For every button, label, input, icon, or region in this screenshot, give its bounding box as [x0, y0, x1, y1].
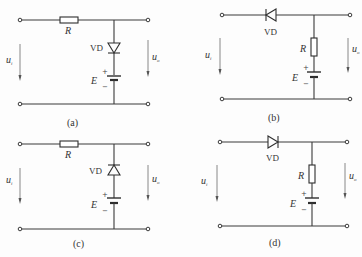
input-voltage-label-d: ui [201, 175, 208, 187]
arrowhead-c-out [147, 195, 150, 201]
output-voltage-label-c: uo [152, 173, 160, 185]
terminal-b-out-bottom [348, 97, 352, 101]
arrowhead-b-in [219, 69, 222, 75]
terminal-d-in-bottom [218, 224, 222, 228]
resistor-d [309, 165, 315, 183]
plus-sign-b: + [303, 64, 309, 72]
terminal-d-in-top [218, 140, 222, 144]
resistor-label-d: R [297, 170, 304, 181]
terminal-a-in-top [18, 18, 22, 22]
diode-label-c: VD [89, 166, 102, 176]
minus-sign-b: − [303, 80, 309, 88]
diode-a-icon [108, 43, 120, 53]
caption-c: (c) [73, 238, 84, 250]
battery-a-icon [107, 76, 121, 80]
output-voltage-label-b: uo [352, 43, 360, 55]
resistor-b [311, 38, 317, 56]
arrowhead-b-out [347, 67, 350, 73]
source-label-a: E [90, 75, 97, 86]
terminal-c-out-top [146, 142, 150, 146]
circuit-b: VD R E + − ui uo (b) [205, 9, 360, 124]
circuit-diagram-svg: R VD E + − ui uo (a) VD R E [0, 0, 362, 257]
diode-c-icon [108, 165, 120, 175]
input-voltage-label-c: ui [6, 174, 13, 186]
terminal-a-out-top [146, 18, 150, 22]
diode-b-icon [266, 9, 276, 21]
diode-label-d: VD [266, 153, 279, 163]
arrowhead-d-out [344, 193, 347, 199]
output-voltage-label-a: uo [152, 51, 160, 63]
battery-d-icon [305, 198, 319, 203]
arrowhead-c-in [19, 198, 22, 204]
diode-label-b: VD [264, 27, 277, 37]
input-voltage-label-b: ui [205, 49, 212, 61]
minus-sign-d: − [301, 206, 307, 214]
caption-a: (a) [67, 117, 78, 129]
terminal-b-in-top [220, 13, 224, 17]
terminal-c-out-bottom [146, 227, 150, 231]
plus-sign-a: + [102, 68, 108, 76]
minus-sign-a: − [102, 83, 108, 91]
diode-label-a: VD [90, 43, 103, 53]
plus-sign-c: + [102, 191, 108, 199]
terminal-c-in-top [18, 142, 22, 146]
terminal-b-in-bottom [220, 97, 224, 101]
source-label-d: E [289, 198, 296, 209]
circuit-figure: R VD E + − ui uo (a) VD R E [0, 0, 362, 257]
terminal-d-out-bottom [345, 224, 349, 228]
arrowhead-a-in [19, 75, 22, 81]
caption-d: (d) [269, 237, 281, 249]
terminal-c-in-bottom [18, 227, 22, 231]
resistor-label-c: R [64, 149, 71, 160]
terminal-d-out-top [345, 140, 349, 144]
terminal-b-out-top [348, 13, 352, 17]
circuit-d: VD R E + − ui uo (d) [201, 136, 357, 249]
minus-sign-c: − [102, 207, 108, 215]
source-label-b: E [291, 72, 298, 83]
output-voltage-label-d: uo [349, 170, 357, 182]
input-voltage-label-a: ui [6, 54, 13, 66]
source-label-c: E [90, 199, 97, 210]
circuit-c: R VD E + − ui uo (c) [6, 141, 160, 250]
caption-b: (b) [268, 112, 280, 124]
resistor-label-b: R [299, 43, 306, 54]
battery-b-icon [307, 72, 321, 77]
arrowhead-a-out [147, 71, 150, 77]
terminal-a-in-bottom [18, 102, 22, 106]
terminal-a-out-bottom [146, 102, 150, 106]
diode-d-icon [268, 136, 278, 148]
resistor-label-a: R [64, 25, 71, 36]
resistor-c [60, 141, 78, 147]
battery-c-icon [107, 198, 121, 203]
plus-sign-d: + [301, 190, 307, 198]
circuit-a: R VD E + − ui uo (a) [6, 17, 160, 129]
arrowhead-d-in [216, 196, 219, 202]
resistor-a [60, 17, 78, 23]
